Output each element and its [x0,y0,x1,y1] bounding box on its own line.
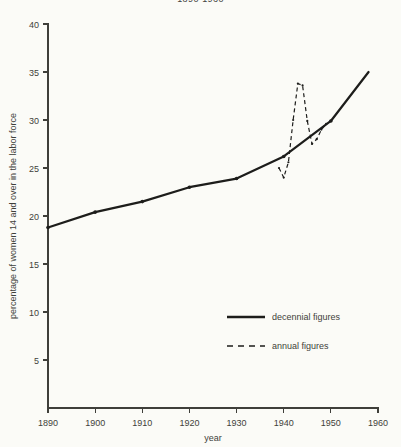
data-point-marker [292,119,294,121]
x-tick-label: 1930 [227,418,247,428]
y-tick-label: 35 [29,68,39,78]
y-axis-title: percentage of women 14 and over in the l… [8,113,18,319]
chart-plot-area: 510152025303540 189019001910192019301940… [0,0,401,447]
data-point-marker [235,177,239,181]
x-axis-title-text: year [204,433,222,443]
data-point-marker [282,155,286,159]
axes-group: 510152025303540 189019001910192019301940… [29,20,388,429]
data-point-marker [93,210,97,214]
data-point-marker [188,185,192,189]
data-point-marker [329,119,333,123]
x-tick-label: 1900 [85,418,105,428]
x-axis-ticks: 18901900191019201930194019501960 [38,407,388,428]
x-tick-label: 1960 [368,418,388,428]
series-decennial-markers [46,119,332,229]
x-tick-label: 1950 [321,418,341,428]
data-point-marker [311,143,313,145]
y-tick-label: 40 [29,20,39,30]
legend-label-decennial-figures: decennial figures [272,312,341,322]
data-point-marker [283,177,285,179]
x-tick-label: 1920 [179,418,199,428]
y-axis-ticks: 510152025303540 [29,20,49,366]
series-decennial-figures [48,72,369,228]
series-group [46,72,368,229]
legend-item-decennial-figures: decennial figures [227,312,341,322]
y-tick-label: 20 [29,212,39,222]
data-point-marker [140,200,144,204]
data-point-marker [306,120,308,122]
y-tick-label: 30 [29,116,39,126]
data-point-marker [297,82,299,84]
legend-label-annual-figures: annual figures [272,341,329,351]
y-axis-title-text: percentage of women 14 and over in the l… [8,113,18,319]
chart-page: 1890-1960 510152025303540 18901900191019… [0,0,401,447]
x-tick-label: 1910 [132,418,152,428]
data-point-marker [278,167,280,169]
data-point-marker [320,129,322,131]
y-tick-label: 5 [34,356,39,366]
data-point-marker [325,123,327,125]
chart-legend: decennial figures annual figures [227,312,341,351]
x-tick-label: 1890 [38,418,58,428]
x-tick-label: 1940 [274,418,294,428]
data-point-marker [287,161,289,163]
y-tick-label: 10 [29,308,39,318]
data-point-marker [316,138,318,140]
y-tick-label: 25 [29,164,39,174]
data-point-marker [301,84,303,86]
data-point-marker [46,226,50,230]
y-tick-label: 15 [29,260,39,270]
legend-item-annual-figures: annual figures [227,341,329,351]
